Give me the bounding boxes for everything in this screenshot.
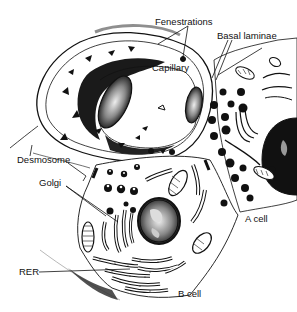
label-basal-laminae: Basal laminae — [217, 31, 277, 41]
label-golgi: Golgi — [39, 178, 61, 188]
capillary — [37, 26, 213, 162]
islet-cell-diagram: Fenestrations Basal laminae Capillary De… — [0, 0, 297, 312]
label-b-cell: B cell — [178, 289, 201, 299]
b-cell — [78, 148, 238, 297]
label-rer: RER — [19, 267, 39, 277]
label-fenestrations: Fenestrations — [155, 17, 213, 27]
label-capillary: Capillary — [152, 63, 189, 73]
label-desmosome: Desmosome — [17, 155, 70, 165]
label-a-cell: A cell — [245, 214, 268, 224]
